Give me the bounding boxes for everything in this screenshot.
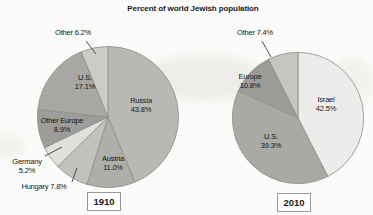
- label-europe-2010-name: Europe: [239, 72, 262, 81]
- label-germany-1910-pct: 5.2%: [12, 166, 41, 175]
- label-europe-2010: Europe 10.8%: [239, 72, 262, 91]
- label-other-2010: Other 7.4%: [237, 28, 273, 37]
- label-israel-2010-name: Israel: [316, 95, 336, 104]
- label-russia-1910-name: Russia: [130, 96, 152, 105]
- year-badge-2010: 2010: [277, 193, 311, 212]
- label-israel-2010-pct: 42.5%: [316, 104, 336, 113]
- scan-bleedthrough-artifact: [0, 134, 24, 158]
- label-other-europe-1910-name: Other Europe: [41, 116, 84, 125]
- label-germany-1910: Germany 5.2%: [12, 157, 41, 176]
- label-other-1910: Other 6.2%: [55, 28, 91, 37]
- label-hungary-1910: Hungary 7.8%: [21, 182, 66, 191]
- label-us-1910-pct: 17.1%: [75, 82, 95, 91]
- label-israel-2010: Israel 42.5%: [316, 95, 336, 114]
- label-other-europe-1910: Other Europe 8.9%: [41, 116, 84, 135]
- label-other-1910-pct: 6.2%: [75, 28, 91, 37]
- figure-world-jewish-population: Percent of world Jewish population Other…: [0, 0, 373, 215]
- label-germany-1910-name: Germany: [12, 157, 41, 166]
- label-russia-1910: Russia 43.8%: [130, 96, 152, 115]
- label-us-2010-name: U.S.: [261, 132, 281, 141]
- label-us-1910-name: U.S.: [75, 73, 95, 82]
- label-hungary-1910-name: Hungary: [21, 182, 48, 191]
- label-us-2010: U.S. 39.3%: [261, 132, 281, 151]
- label-hungary-1910-pct: 7.8%: [50, 182, 66, 191]
- label-europe-2010-pct: 10.8%: [239, 81, 262, 90]
- label-austria-1910: Austria 11.0%: [102, 154, 124, 173]
- label-us-2010-pct: 39.3%: [261, 141, 281, 150]
- label-us-1910: U.S. 17.1%: [75, 73, 95, 92]
- label-austria-1910-pct: 11.0%: [102, 163, 124, 172]
- label-other-europe-1910-pct: 8.9%: [41, 125, 84, 134]
- label-other-2010-pct: 7.4%: [257, 28, 273, 37]
- label-other-1910-name: Other: [55, 28, 73, 37]
- chart-title: Percent of world Jewish population: [0, 4, 373, 13]
- label-austria-1910-name: Austria: [102, 154, 124, 163]
- label-russia-1910-pct: 43.8%: [130, 105, 152, 114]
- year-badge-1910: 1910: [87, 192, 121, 211]
- label-other-2010-name: Other: [237, 28, 255, 37]
